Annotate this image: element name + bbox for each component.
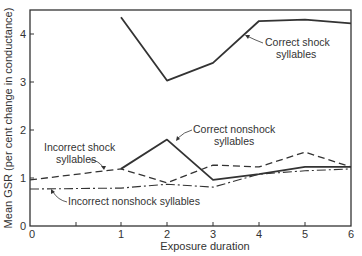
y-tick-label: 2 <box>20 124 26 136</box>
annotation-correct-shock: Correct shock syllables <box>245 35 331 60</box>
x-tick-label: 3 <box>210 228 216 240</box>
label-incorrect-shock: Incorrect shock <box>44 141 116 153</box>
y-tick-label: 3 <box>20 76 26 88</box>
series-correct-shock-syllables <box>121 17 351 80</box>
x-tick-label: 0 <box>29 228 35 240</box>
label-incorrect-shock-2: syllables <box>56 153 96 165</box>
label-incorrect-nonshock: Incorrect nonshock syllables <box>68 195 200 207</box>
x-tick-label: 2 <box>164 228 170 240</box>
leader-incorrect-nonshock <box>53 192 67 202</box>
x-tick-label: 4 <box>256 228 262 240</box>
annotation-incorrect-shock: Incorrect shock syllables <box>44 141 116 170</box>
label-correct-shock: Correct shock <box>265 36 331 48</box>
y-tick-label: 1 <box>20 172 26 184</box>
series-incorrect-nonshock-syllables <box>30 169 351 189</box>
label-correct-shock-2: syllables <box>276 48 316 60</box>
label-correct-nonshock-2: syllables <box>214 135 254 147</box>
arrow-icon <box>51 189 55 194</box>
gsr-line-chart: 0123456 01234 Exposure duration Mean GSR… <box>0 0 362 256</box>
y-tick-label: 0 <box>20 220 26 232</box>
x-tick-label: 6 <box>348 228 354 240</box>
annotation-correct-nonshock: Correct nonshock syllables <box>176 123 276 147</box>
y-tick-label: 4 <box>20 28 26 40</box>
x-axis-title: Exposure duration <box>160 240 249 252</box>
x-axis: 0123456 <box>29 222 354 240</box>
annotation-incorrect-nonshock: Incorrect nonshock syllables <box>51 189 200 207</box>
y-axis: 01234 <box>20 28 34 232</box>
leader-correct-shock <box>247 36 263 43</box>
x-tick-label: 1 <box>118 228 124 240</box>
label-correct-nonshock: Correct nonshock <box>193 123 276 135</box>
x-tick-label: 5 <box>302 228 308 240</box>
arrow-icon <box>101 166 106 170</box>
leader-correct-nonshock <box>178 130 192 138</box>
y-axis-title: Mean GSR (per cent change in conductance… <box>2 8 14 229</box>
